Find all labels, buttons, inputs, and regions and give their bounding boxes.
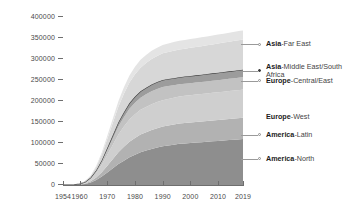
legend-callout-label[interactable]: America-North (266, 155, 314, 164)
x-axis-tick-mark (107, 181, 108, 186)
x-axis-tick-label: 1960 (72, 193, 88, 200)
x-axis-tick-mark (218, 181, 219, 186)
callout-marker (258, 69, 261, 72)
x-axis-tick-label: 1980 (127, 193, 143, 200)
y-axis-tick-label: 0 (51, 180, 55, 190)
y-axis-tick-label: 50000 (35, 159, 55, 169)
callout-leader-line (241, 159, 258, 160)
y-axis-tick-label: 350000 (31, 33, 55, 43)
callout-subregion: -North (294, 154, 314, 163)
stacked-area-svg (63, 17, 243, 185)
y-axis-tick-label: 300000 (31, 54, 55, 64)
callout-subregion: -Latin (294, 130, 312, 139)
callout-region: Asia (266, 39, 281, 48)
x-axis-tick-label: 2000 (182, 193, 198, 200)
callout-subregion: -West (291, 112, 310, 121)
y-axis-tick: 350000 (0, 33, 63, 43)
x-axis-tick-mark (135, 181, 136, 186)
callout-leader-line (241, 71, 258, 72)
callout-marker (258, 79, 261, 82)
y-axis-tick-label: 100000 (31, 138, 55, 148)
callout-marker (258, 157, 261, 160)
callout-region: America (266, 130, 294, 139)
y-axis-tick: 250000 (0, 75, 63, 85)
y-axis-tick: 400000 (0, 12, 63, 22)
callout-marker (258, 133, 261, 136)
y-axis-tick-label: 200000 (31, 96, 55, 106)
callout-leader-line (241, 135, 258, 136)
plot-area (63, 17, 243, 185)
y-axis-tick: 0 (0, 180, 63, 190)
x-axis-tick-mark (243, 181, 244, 186)
callout-subregion: -Far East (281, 39, 311, 48)
x-axis-line (63, 185, 243, 186)
x-axis-tick-mark (80, 181, 81, 186)
y-axis-tick-label: 250000 (31, 75, 55, 85)
legend-callout-label[interactable]: America-Latin (266, 131, 312, 140)
callout-subregion: -Central/East (291, 76, 333, 85)
legend-callout-label[interactable]: Europe-West (266, 113, 309, 122)
y-axis-tick-label: 150000 (31, 117, 55, 127)
y-axis-tick: 200000 (0, 96, 63, 106)
x-axis-tick-label: 1970 (99, 193, 115, 200)
y-axis-tick: 50000 (0, 159, 63, 169)
x-axis-tick-label: 1954 (55, 193, 71, 200)
callout-leader-line (241, 44, 258, 45)
x-axis-tick-label: 1990 (155, 193, 171, 200)
callout-marker (258, 43, 261, 46)
y-axis-tick-label: 400000 (31, 12, 55, 22)
y-axis-tick: 300000 (0, 54, 63, 64)
legend-callout-label[interactable]: Europe-Central/East (266, 77, 333, 86)
legend-callout-label[interactable]: Asia-Far East (266, 40, 311, 49)
x-axis-tick-label: 2010 (210, 193, 226, 200)
callout-leader-line (241, 81, 258, 82)
clipped-title-remnant (46, 0, 353, 3)
x-axis-tick-mark (63, 181, 64, 186)
x-axis-tick-mark (190, 181, 191, 186)
x-axis-tick-mark (163, 181, 164, 186)
x-axis-tick-label: 2019 (235, 193, 251, 200)
y-axis-tick: 100000 (0, 138, 63, 148)
callout-region: America (266, 154, 294, 163)
callout-region: Europe (266, 76, 291, 85)
callout-region: Europe (266, 112, 291, 121)
y-axis-tick: 150000 (0, 117, 63, 127)
